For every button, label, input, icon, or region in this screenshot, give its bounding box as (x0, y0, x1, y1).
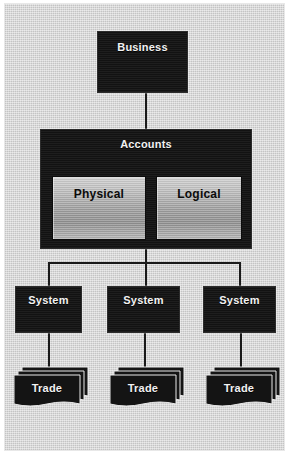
connector-accounts-to-bus (145, 249, 147, 286)
document-stack-icon (14, 363, 92, 411)
diagram-canvas: Business Accounts Physical Logical Syste… (0, 0, 293, 469)
document-stack-icon (206, 363, 284, 411)
node-system-2-label: System (108, 294, 179, 306)
node-business-label: Business (98, 41, 187, 53)
connector-system-3-to-trade-3 (240, 333, 242, 367)
node-business[interactable]: Business (97, 31, 188, 93)
node-trade-2[interactable]: Trade (110, 363, 188, 411)
node-system-3[interactable]: System (203, 286, 276, 333)
node-physical[interactable]: Physical (52, 176, 146, 240)
node-system-1[interactable]: System (15, 286, 82, 333)
node-accounts[interactable]: Accounts Physical Logical (40, 129, 252, 249)
node-physical-label: Physical (53, 187, 145, 201)
node-logical-label: Logical (157, 187, 241, 201)
node-system-3-label: System (204, 294, 275, 306)
node-trade-1[interactable]: Trade (14, 363, 92, 411)
node-system-2[interactable]: System (107, 286, 180, 333)
connector-bus-to-system-3 (239, 262, 241, 287)
node-logical[interactable]: Logical (156, 176, 242, 240)
document-stack-icon (110, 363, 188, 411)
connector-business-to-accounts (145, 93, 147, 129)
connector-system-1-to-trade-1 (48, 333, 50, 367)
node-accounts-label: Accounts (41, 138, 251, 150)
node-system-1-label: System (16, 294, 81, 306)
node-trade-3[interactable]: Trade (206, 363, 284, 411)
connector-bus-to-system-1 (48, 262, 50, 287)
connector-system-2-to-trade-2 (144, 333, 146, 367)
connector-system-distribution-bar (48, 262, 241, 264)
